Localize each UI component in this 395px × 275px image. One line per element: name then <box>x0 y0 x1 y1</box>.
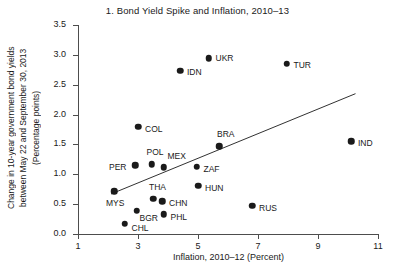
y-axis-tick-label: 0.0 <box>53 228 66 238</box>
data-point-mex <box>160 164 167 171</box>
y-axis-title-line-1: Change in 10-year government bond yields <box>6 18 16 238</box>
data-point-label-mex: MEX <box>168 152 186 161</box>
data-point-rus <box>249 203 256 210</box>
data-point-ind <box>348 138 355 145</box>
data-point-label-per: PER <box>109 163 126 172</box>
plot-area: 0.00.51.01.52.02.53.03.51357911MYSCHLPER… <box>78 25 378 234</box>
data-point-label-phl: PHL <box>171 213 188 222</box>
y-axis-tick-label: 2.0 <box>53 109 66 119</box>
x-axis-line <box>78 234 379 235</box>
y-axis-tick-label: 1.0 <box>53 168 66 178</box>
data-point-label-ukr: UKR <box>216 54 234 63</box>
x-axis-tick-label: 7 <box>255 241 260 251</box>
data-point-pol <box>148 161 155 168</box>
data-point-tha <box>150 196 157 203</box>
y-axis-tick-label: 2.5 <box>53 79 66 89</box>
x-axis-tick-label: 3 <box>135 241 140 251</box>
y-axis-tick: 2.0 <box>73 115 78 116</box>
x-axis-tick: 5 <box>198 234 199 239</box>
x-axis-title: Inflation, 2010–12 (Percent) <box>78 252 379 262</box>
data-point-label-pol: POL <box>147 148 164 157</box>
y-axis-title-line-3: (Percentage points) <box>31 18 41 238</box>
data-point-tur <box>283 61 290 68</box>
data-point-hun <box>195 182 202 189</box>
data-point-zaf <box>193 163 200 170</box>
data-point-label-hun: HUN <box>205 184 223 193</box>
data-point-idn <box>177 68 184 75</box>
data-point-label-chn: CHN <box>169 199 187 208</box>
data-point-bra <box>216 143 223 150</box>
data-point-label-tur: TUR <box>294 61 311 70</box>
x-axis-tick: 9 <box>318 234 319 239</box>
y-axis-tick-label: 3.0 <box>53 49 66 59</box>
y-axis-tick: 1.0 <box>73 174 78 175</box>
y-axis-tick: 1.5 <box>73 144 78 145</box>
data-point-label-mys: MYS <box>106 199 124 208</box>
data-point-label-idn: IDN <box>187 68 202 77</box>
x-axis-tick: 1 <box>78 234 79 239</box>
x-axis-tick-label: 5 <box>195 241 200 251</box>
data-point-label-ind: IND <box>358 139 373 148</box>
data-point-phl <box>160 211 167 218</box>
y-axis-tick: 0.5 <box>73 204 78 205</box>
x-axis-tick: 7 <box>258 234 259 239</box>
data-point-label-zaf: ZAF <box>204 165 220 174</box>
x-axis-tick-label: 1 <box>75 241 80 251</box>
data-point-label-col: COL <box>145 125 162 134</box>
data-point-col <box>135 123 142 130</box>
data-point-chl <box>121 221 128 228</box>
x-axis-tick: 3 <box>138 234 139 239</box>
y-axis-tick-label: 1.5 <box>53 138 66 148</box>
data-point-per <box>132 162 139 169</box>
bond-yield-inflation-scatter-chart: 1. Bond Yield Spike and Inflation, 2010–… <box>0 0 395 275</box>
data-point-label-bra: BRA <box>217 130 234 139</box>
y-axis-title: Change in 10-year government bond yields… <box>2 18 60 238</box>
y-axis-tick: 3.5 <box>73 25 78 26</box>
data-point-label-tha: THA <box>149 183 166 192</box>
y-axis-tick: 3.0 <box>73 55 78 56</box>
data-point-label-bgr: BGR <box>140 214 158 223</box>
y-axis-tick-label: 3.5 <box>53 19 66 29</box>
data-point-label-rus: RUS <box>259 204 277 213</box>
data-point-ukr <box>205 55 212 62</box>
x-axis-tick-label: 9 <box>315 241 320 251</box>
data-point-chn <box>159 198 166 205</box>
y-axis-tick: 2.5 <box>73 85 78 86</box>
data-point-label-chl: CHL <box>132 224 149 233</box>
x-axis-tick-label: 11 <box>373 241 382 251</box>
x-axis-tick: 11 <box>378 234 379 239</box>
data-point-mys <box>111 188 118 195</box>
y-axis-tick-label: 0.5 <box>53 198 66 208</box>
y-axis-title-line-2: between May 22 and September 30, 2013 <box>18 18 28 238</box>
chart-title: 1. Bond Yield Spike and Inflation, 2010–… <box>0 5 395 16</box>
